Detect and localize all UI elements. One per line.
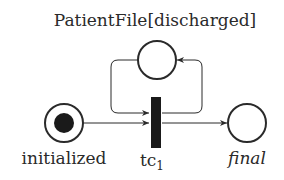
petri-net-diagram: PatientFile[discharged] initialized tc1 … bbox=[0, 0, 284, 180]
place-label-final: final bbox=[226, 148, 266, 168]
place-final[interactable] bbox=[228, 104, 266, 142]
place-label-patientfile: PatientFile[discharged] bbox=[54, 10, 257, 30]
transition-tc1[interactable] bbox=[151, 97, 161, 148]
place-patientfile[interactable] bbox=[138, 41, 176, 79]
token-icon bbox=[54, 113, 74, 133]
place-label-initialized: initialized bbox=[22, 148, 107, 168]
transition-label-tc1: tc1 bbox=[140, 150, 164, 173]
